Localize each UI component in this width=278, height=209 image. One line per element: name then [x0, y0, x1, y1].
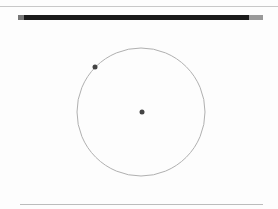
- center-point-handle[interactable]: [140, 110, 145, 115]
- bottom-divider: [20, 204, 263, 205]
- radius-point-handle[interactable]: [93, 65, 98, 70]
- drawing-canvas[interactable]: [0, 0, 278, 209]
